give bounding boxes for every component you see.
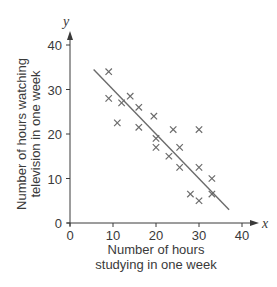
x-marker-icon — [166, 153, 172, 159]
x-axis-variable: x — [261, 216, 269, 231]
x-marker-icon — [187, 191, 193, 197]
ticks: 010203040010203040 — [48, 38, 250, 243]
data-points — [106, 69, 216, 204]
x-marker-icon — [136, 124, 142, 130]
line-of-best-fit — [94, 69, 229, 209]
y-axis-arrow-icon — [67, 31, 73, 40]
y-tick-label: 10 — [48, 172, 62, 187]
x-marker-icon — [196, 198, 202, 204]
x-tick-label: 30 — [192, 228, 206, 243]
x-marker-icon — [136, 104, 142, 110]
y-tick-label: 30 — [48, 83, 62, 98]
y-tick-label: 40 — [48, 38, 62, 53]
x-marker-icon — [196, 126, 202, 132]
x-marker-icon — [176, 144, 182, 150]
y-axis-label-line-1: Number of hours watching — [14, 58, 29, 210]
y-tick-label: 20 — [48, 127, 62, 142]
axes — [67, 31, 259, 226]
x-marker-icon — [151, 113, 157, 119]
x-tick-label: 40 — [235, 228, 249, 243]
y-axis-label-line-2: television in one week — [28, 70, 43, 198]
x-tick-label: 0 — [66, 228, 73, 243]
x-marker-icon — [196, 164, 202, 170]
x-axis-label-line-2: studying in one week — [95, 257, 217, 272]
x-marker-icon — [153, 144, 159, 150]
x-marker-icon — [127, 93, 133, 99]
x-tick-label: 20 — [149, 228, 163, 243]
y-tick-label: 0 — [55, 216, 62, 231]
x-tick-label: 10 — [106, 228, 120, 243]
x-marker-icon — [106, 95, 112, 101]
scatter-chart: 010203040010203040 y x Number of hours s… — [0, 0, 277, 287]
x-marker-icon — [209, 175, 215, 181]
x-marker-icon — [176, 164, 182, 170]
x-marker-icon — [118, 100, 124, 106]
x-marker-icon — [153, 135, 159, 141]
y-axis-variable: y — [61, 14, 70, 29]
x-axis-label-line-1: Number of hours — [108, 242, 205, 257]
trend-line — [94, 69, 229, 209]
x-marker-icon — [114, 120, 120, 126]
x-axis-arrow-icon — [250, 220, 259, 226]
x-marker-icon — [170, 126, 176, 132]
x-marker-icon — [106, 69, 112, 75]
